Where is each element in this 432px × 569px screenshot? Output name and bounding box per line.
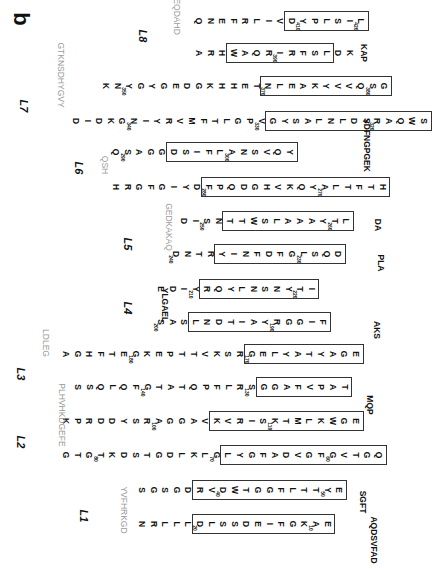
- beta-strand-box: [214, 244, 346, 264]
- residue: L: [222, 115, 232, 127]
- residue: R: [164, 115, 174, 127]
- residue: G: [134, 181, 144, 193]
- loop-residues-l2: PLHVHKDGEFE: [57, 383, 67, 446]
- residue: Q: [96, 381, 106, 393]
- residue: T: [177, 381, 187, 393]
- residue: D: [96, 415, 106, 427]
- residue: L: [224, 381, 234, 393]
- residue: T: [142, 449, 152, 461]
- residue: D: [94, 115, 104, 127]
- residue: G: [165, 415, 175, 427]
- residue: K: [212, 348, 222, 360]
- loop-label-l3: L3: [15, 368, 27, 381]
- residue: K: [101, 80, 111, 92]
- residue: P: [165, 348, 175, 360]
- loop-residues-l3: LDLEG: [41, 329, 51, 357]
- residue: L: [172, 518, 182, 530]
- residue: Y: [147, 80, 157, 92]
- residue: Y: [180, 181, 190, 193]
- residue: S: [84, 381, 94, 393]
- residue: T: [194, 248, 204, 260]
- residue: S: [223, 348, 233, 360]
- residue: A: [166, 381, 176, 393]
- beta-strand-box: [220, 445, 386, 465]
- residue: H: [228, 80, 238, 92]
- residue: I: [263, 15, 273, 27]
- tail-segment-6: DA: [373, 219, 383, 231]
- residue: G: [154, 449, 164, 461]
- residue: D: [165, 449, 175, 461]
- residue: Q: [119, 381, 129, 393]
- residue: S: [130, 415, 140, 427]
- residue: I: [82, 115, 92, 127]
- residue: T80: [96, 449, 106, 461]
- residue: G180: [130, 348, 140, 360]
- beta-strand-box: [265, 111, 431, 131]
- residue: T: [107, 348, 117, 360]
- residue: E: [217, 15, 227, 27]
- residue: T: [177, 348, 187, 360]
- loop-residues-l4: YLGAEL: [160, 288, 170, 322]
- residue: D: [119, 449, 129, 461]
- residue: Y: [119, 415, 129, 427]
- beta-strand-box: [260, 76, 392, 96]
- residue: S290: [122, 146, 132, 158]
- residue: S: [130, 449, 140, 461]
- loop-residues-l6: QSH: [100, 156, 110, 174]
- residue: E: [154, 348, 164, 360]
- residue: G: [194, 80, 204, 92]
- residue: Q: [189, 381, 199, 393]
- c-terminal-tail: AQDSVFAD: [369, 516, 379, 563]
- residue: N340: [129, 115, 139, 127]
- residue: K: [142, 348, 152, 360]
- residue: L: [252, 15, 262, 27]
- beta-strand-box: [199, 279, 319, 299]
- residue: H: [217, 80, 227, 92]
- residue: F: [212, 381, 222, 393]
- residue: F: [146, 181, 156, 193]
- residue: K: [106, 115, 116, 127]
- loop-label-l7: L7: [18, 100, 30, 113]
- residue: G: [157, 181, 167, 193]
- tail-segment-8: KAP: [359, 44, 369, 62]
- residue: F: [96, 348, 106, 360]
- residue: L: [108, 381, 118, 393]
- residue: Y350: [124, 80, 134, 92]
- residue: I: [140, 115, 150, 127]
- loop-residues-l1: YVFHRKGD: [119, 486, 129, 533]
- loop-label-l1: L1: [78, 510, 90, 523]
- residue: K: [188, 449, 198, 461]
- beta-strand-box: [226, 43, 334, 63]
- residue: S: [160, 484, 170, 496]
- residue: V: [175, 115, 185, 127]
- residue: D: [179, 215, 189, 227]
- residue: D: [182, 80, 192, 92]
- beta-strand-box: [192, 514, 335, 534]
- loop-label-l8: L8: [137, 30, 149, 43]
- tail-segment-4: AKS: [372, 321, 382, 339]
- residue: P: [72, 415, 82, 427]
- residue: N: [205, 15, 215, 27]
- residue: Q: [194, 15, 204, 27]
- residue: T: [188, 348, 198, 360]
- loop-label-l6: L6: [73, 162, 85, 175]
- residue: G: [233, 115, 243, 127]
- residue: I: [169, 181, 179, 193]
- tail-segment-2: SGFT: [358, 491, 368, 514]
- residue: G: [172, 484, 182, 496]
- loop-label-l2: L2: [15, 436, 27, 449]
- loop-residues-l7: GTKNSDHYGVY: [56, 42, 66, 107]
- residue: Y: [152, 115, 162, 127]
- residue: H: [84, 348, 94, 360]
- residue: K: [345, 47, 355, 59]
- residue: N: [137, 518, 147, 530]
- beta-strand-box: [222, 211, 354, 231]
- residue: A: [61, 348, 71, 360]
- residue: F: [229, 15, 239, 27]
- residue: T: [72, 449, 82, 461]
- residue: F: [198, 115, 208, 127]
- residue: G: [136, 80, 146, 92]
- residue: H: [111, 181, 121, 193]
- residue: K: [107, 449, 117, 461]
- residue: E: [240, 80, 250, 92]
